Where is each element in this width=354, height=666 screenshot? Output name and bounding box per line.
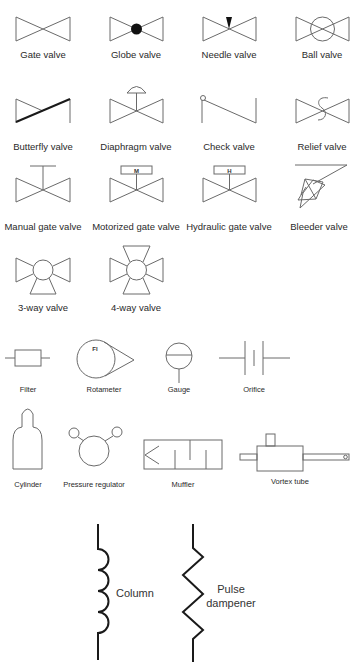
vortex-tube: Vortex tube: [240, 434, 349, 486]
diaphragm-valve: Diaphragm valve: [100, 87, 171, 153]
bleeder-valve-line: [295, 165, 347, 184]
column-label: Column: [116, 587, 154, 599]
motorized-gate-valve: M Motorized gate valve: [92, 166, 180, 232]
orifice-symbol: [219, 341, 290, 375]
four-way-valve: 4-way valve: [110, 246, 163, 313]
vortex-tube-cold-outlet: [240, 454, 257, 460]
filter-label: Filter: [20, 385, 37, 394]
three-way-valve-label: 3-way valve: [18, 302, 68, 313]
gauge-label: Gauge: [168, 385, 191, 394]
pressure-regulator-label: Pressure regulator: [63, 480, 125, 489]
needle-valve: Needle valve: [202, 17, 257, 60]
check-valve: Check valve: [201, 96, 257, 153]
motor-letter: M: [134, 168, 139, 174]
orifice: Orifice: [219, 341, 290, 394]
four-way-valve-label: 4-way valve: [111, 302, 161, 313]
orifice-label: Orifice: [243, 385, 265, 394]
vortex-tube-valve: [344, 455, 348, 459]
rotameter: FI Rotameter: [77, 340, 134, 394]
check-valve-hinge: [201, 96, 206, 101]
bleeder-valve: Bleeder valve: [290, 165, 348, 232]
muffler: Muffler: [144, 440, 222, 489]
pulse-dampener: Pulse dampener: [183, 524, 256, 662]
relief-valve-label: Relief valve: [297, 141, 346, 152]
relief-valve: Relief valve: [296, 98, 349, 152]
hydraulic-gate-valve: H Hydraulic gate valve: [186, 166, 272, 232]
diaphragm-valve-label: Diaphragm valve: [100, 141, 171, 152]
cylinder-body: [13, 409, 42, 469]
manual-gate-valve: Manual gate valve: [4, 166, 81, 232]
column: Column: [98, 524, 154, 660]
check-valve-symbol: [202, 98, 256, 123]
vortex-tube-inlet: [266, 434, 275, 446]
manual-gate-valve-label: Manual gate valve: [4, 221, 81, 232]
ball-valve-symbol: [296, 17, 349, 41]
filter: Filter: [5, 350, 50, 394]
rotameter-tag: FI: [92, 346, 98, 352]
gate-valve: Gate valve: [16, 17, 70, 60]
three-way-valve: 3-way valve: [16, 258, 70, 313]
filter-box: [15, 350, 41, 366]
cylinder-label: Cylinder: [14, 480, 42, 489]
regulator-gauge-right: [112, 427, 122, 437]
globe-valve: Globe valve: [110, 17, 163, 60]
four-way-valve-symbol: [110, 246, 163, 294]
hydraulic-gate-valve-label: Hydraulic gate valve: [186, 221, 272, 232]
gauge-symbol: [166, 355, 192, 383]
gate-valve-label: Gate valve: [20, 49, 65, 60]
pulse-dampener-label-line2: dampener: [206, 597, 256, 609]
gauge: Gauge: [166, 343, 192, 394]
ball-valve: Ball valve: [296, 17, 349, 60]
hydraulic-letter: H: [227, 168, 231, 174]
pressure-regulator: Pressure regulator: [63, 427, 125, 489]
diaphragm-valve-dome: [127, 87, 146, 94]
gate-valve-symbol: [16, 17, 70, 41]
ball-valve-label: Ball valve: [302, 49, 343, 60]
muffler-label: Muffler: [172, 480, 195, 489]
three-way-valve-symbol: [16, 258, 70, 294]
pulse-dampener-label-line1: Pulse: [217, 583, 245, 595]
globe-valve-label: Globe valve: [111, 49, 161, 60]
vortex-tube-body: [257, 446, 303, 471]
bleeder-valve-label: Bleeder valve: [290, 221, 348, 232]
symbol-diagram: Gate valve Globe valve Needle valve Ball…: [0, 0, 354, 666]
cylinder: Cylinder: [13, 409, 42, 489]
needle-valve-label: Needle valve: [202, 49, 257, 60]
regulator-gauge-left: [69, 428, 79, 438]
check-valve-label: Check valve: [203, 141, 255, 152]
motorized-gate-valve-label: Motorized gate valve: [92, 221, 180, 232]
gauge-circle: [166, 343, 192, 369]
muffler-box: [144, 440, 222, 469]
three-way-valve-ball: [33, 260, 53, 280]
globe-valve-ball: [131, 24, 142, 35]
regulator-connectors: [78, 436, 113, 441]
butterfly-valve: Butterfly valve: [13, 99, 73, 152]
column-symbol: [98, 524, 109, 660]
rotameter-label: Rotameter: [86, 385, 122, 394]
butterfly-valve-label: Butterfly valve: [13, 141, 73, 152]
pulse-dampener-symbol: [183, 524, 203, 662]
four-way-valve-ball: [127, 260, 147, 280]
rotameter-cone: [104, 342, 134, 376]
muffler-baffles: [145, 440, 206, 469]
vortex-tube-label: Vortex tube: [271, 477, 309, 486]
vortex-tube-hot-outlet: [303, 454, 349, 460]
needle-valve-needle: [226, 17, 232, 29]
